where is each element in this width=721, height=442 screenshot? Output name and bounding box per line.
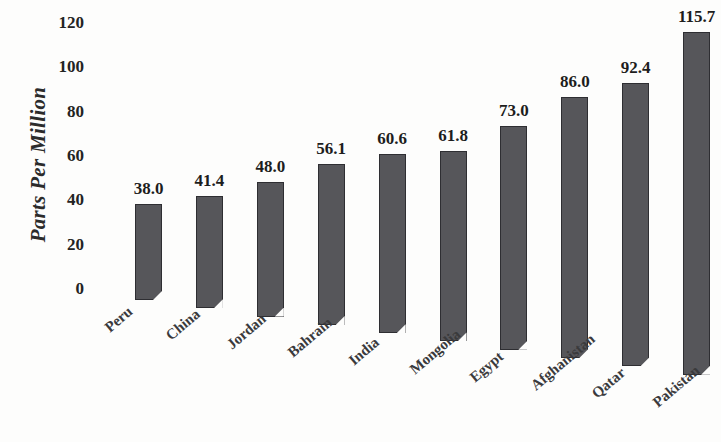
bar-value-label-afghanistan: 86.0 xyxy=(545,73,605,90)
bar-peru xyxy=(135,204,162,300)
category-label-china: China xyxy=(163,307,203,344)
bar-mongolia xyxy=(440,151,467,341)
bar-value-label-peru: 38.0 xyxy=(119,180,179,197)
category-label-mongolia: Mongolia xyxy=(407,326,463,377)
bar-afghanistan xyxy=(561,97,588,358)
category-label-qatar: Qatar xyxy=(589,366,628,402)
bar-value-label-mongolia: 61.8 xyxy=(423,127,483,144)
bar-value-label-bahrain: 56.1 xyxy=(301,140,361,157)
bar-jordan xyxy=(257,182,284,317)
bar-value-label-china: 41.4 xyxy=(179,172,239,189)
bar-value-label-qatar: 92.4 xyxy=(606,59,666,76)
bar-india xyxy=(379,154,406,334)
plot-area: 38.0Peru41.4China48.0Jordan56.1Bahrain60… xyxy=(0,0,721,442)
bar-bahrain xyxy=(318,164,345,325)
category-label-india: India xyxy=(346,335,382,368)
category-label-egypt: Egypt xyxy=(468,349,507,385)
bar-value-label-pakistan: 115.7 xyxy=(667,8,721,25)
category-label-bahrain: Bahrain xyxy=(285,315,335,360)
bar-china xyxy=(196,196,223,308)
bar-egypt xyxy=(500,126,527,350)
bar-pakistan xyxy=(683,32,710,375)
category-label-jordan: Jordan xyxy=(224,311,269,352)
category-label-peru: Peru xyxy=(102,304,135,335)
bar-value-label-india: 60.6 xyxy=(362,130,422,147)
bar-value-label-jordan: 48.0 xyxy=(240,158,300,175)
bar-chart: Parts Per Million 020406080100120 38.0Pe… xyxy=(0,0,721,442)
category-label-pakistan: Pakistan xyxy=(650,363,702,410)
bar-qatar xyxy=(622,83,649,366)
bar-value-label-egypt: 73.0 xyxy=(484,102,544,119)
